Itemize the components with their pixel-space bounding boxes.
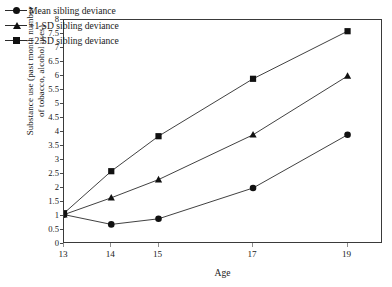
x-tick-mark <box>347 243 348 247</box>
y-tick-label: 4 <box>33 127 59 136</box>
y-tick-label: 4.5 <box>33 113 59 122</box>
legend-item-label: +2 SD sibling deviance <box>27 35 119 46</box>
triangle-marker-icon <box>13 22 21 29</box>
y-tick-label: 0.5 <box>33 225 59 234</box>
data-point-triangle <box>155 176 162 183</box>
square-marker-icon <box>13 37 20 44</box>
y-tick-label: 1.5 <box>33 197 59 206</box>
legend-item[interactable]: Mean sibling deviance <box>5 3 119 18</box>
x-tick-label: 19 <box>332 249 362 259</box>
data-point-circle <box>344 132 351 139</box>
y-tick-label: 2 <box>33 183 59 192</box>
data-point-square <box>344 28 350 34</box>
legend-key <box>5 20 27 31</box>
data-point-triangle <box>344 72 351 79</box>
legend-item-label: +1 SD sibling deviance <box>27 20 119 31</box>
y-tick-label: 0 <box>33 239 59 248</box>
data-point-square <box>155 133 161 139</box>
y-tick-label: 2.5 <box>33 169 59 178</box>
data-point-circle <box>155 216 162 223</box>
data-point-square <box>250 76 256 82</box>
legend-key <box>5 5 27 16</box>
legend-item[interactable]: +2 SD sibling deviance <box>5 33 119 48</box>
y-tick-label: 3.5 <box>33 141 59 150</box>
series-1 <box>64 132 351 228</box>
x-tick-mark <box>252 243 253 247</box>
chart-figure: Substance use (past month number of toba… <box>0 0 392 287</box>
plot-area <box>63 19 382 243</box>
data-point-triangle <box>249 131 256 138</box>
x-axis-tick-labels: 1314151719 <box>63 249 382 263</box>
series-2 <box>64 72 351 217</box>
series-layer <box>64 20 383 244</box>
series-line <box>64 135 348 225</box>
legend-key <box>5 35 27 46</box>
data-point-circle <box>250 185 257 192</box>
y-tick-label: 3 <box>33 155 59 164</box>
x-tick-mark <box>63 243 64 247</box>
legend-item-label: Mean sibling deviance <box>27 5 116 16</box>
chart-legend: Mean sibling deviance+1 SD sibling devia… <box>5 3 119 48</box>
y-tick-label: 5.5 <box>33 85 59 94</box>
series-3 <box>64 28 351 216</box>
y-tick-label: 5 <box>33 99 59 108</box>
y-tick-label: 1 <box>33 211 59 220</box>
y-axis-tick-labels: 87.576.565.554.543.532.521.510.50 <box>33 19 59 243</box>
series-line <box>64 76 348 215</box>
y-tick-label: 6.5 <box>33 57 59 66</box>
x-tick-mark <box>110 243 111 247</box>
x-tick-mark <box>158 243 159 247</box>
legend-item[interactable]: +1 SD sibling deviance <box>5 18 119 33</box>
x-axis-title: Age <box>63 268 382 278</box>
x-tick-label: 15 <box>143 249 173 259</box>
x-axis-tick-marks <box>63 243 382 248</box>
data-point-circle <box>108 221 115 228</box>
x-tick-label: 13 <box>48 249 78 259</box>
data-point-square <box>108 168 114 174</box>
x-tick-label: 17 <box>237 249 267 259</box>
x-tick-label: 14 <box>95 249 125 259</box>
series-line <box>64 31 348 213</box>
data-point-square <box>64 210 67 216</box>
circle-marker-icon <box>13 7 20 14</box>
y-tick-label: 6 <box>33 71 59 80</box>
